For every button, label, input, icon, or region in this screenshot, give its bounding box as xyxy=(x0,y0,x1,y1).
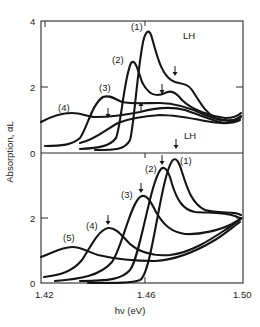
y-axis-label: Absorption, αL xyxy=(4,121,15,182)
upper-curves xyxy=(41,32,241,150)
arrow-down-icon xyxy=(139,189,144,193)
lower-label-1: (1) xyxy=(180,155,192,166)
x-axis-label: hν (eV) xyxy=(115,305,146,316)
lower-curve-2 xyxy=(80,168,241,281)
lower-y-tick-0: 0 xyxy=(30,278,35,289)
upper-curve-2 xyxy=(80,62,241,149)
x-tick-1.50: 1.50 xyxy=(233,289,252,300)
upper-label-3: (3) xyxy=(99,82,111,93)
upper-y-tick-4: 4 xyxy=(30,16,35,27)
absorption-chart: 4 2 0 2 0 1.42 1.46 1.50 hν (eV) Absorpt… xyxy=(0,0,260,327)
lower-arrows xyxy=(106,139,179,225)
lower-label-4: (4) xyxy=(86,220,98,231)
lower-label-5: (5) xyxy=(63,232,75,243)
lower-label-3: (3) xyxy=(121,189,133,200)
upper-label-1: (1) xyxy=(131,21,143,32)
lower-y-tick-2: 2 xyxy=(30,213,35,224)
arrow-down-icon xyxy=(106,221,111,225)
arrow-down-icon xyxy=(160,161,165,165)
upper-label-lh: LH xyxy=(183,30,195,41)
lower-label-2: (2) xyxy=(145,163,157,174)
x-tick-1.42: 1.42 xyxy=(35,289,54,300)
lower-curves xyxy=(41,159,241,283)
upper-y-tick-0: 0 xyxy=(30,148,35,159)
upper-y-tick-2: 2 xyxy=(30,82,35,93)
x-tick-1.46: 1.46 xyxy=(137,289,156,300)
upper-label-2: (2) xyxy=(112,54,124,65)
lower-label-lh: LH xyxy=(184,130,196,141)
arrow-down-icon xyxy=(174,145,179,149)
plot-frame xyxy=(41,21,243,283)
arrow-down-icon xyxy=(173,72,178,76)
upper-label-4: (4) xyxy=(58,102,70,113)
